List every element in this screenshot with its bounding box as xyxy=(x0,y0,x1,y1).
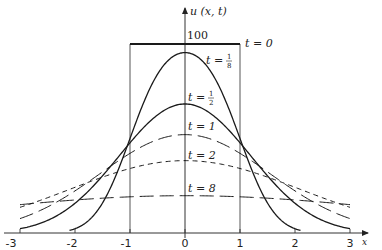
x-tick-labels: -3 -2 -1 0 1 2 3 xyxy=(6,237,354,250)
x-axis-label: x xyxy=(362,237,367,247)
heat-equation-chart: -3 -2 -1 0 1 2 3 u (x, t) x 100 t = 0 t … xyxy=(0,0,382,250)
x-tick-label: 3 xyxy=(347,237,354,250)
label-t8: t = 8 xyxy=(188,182,216,195)
x-tick-label: 1 xyxy=(237,237,244,250)
label-t0: t = 0 xyxy=(245,37,273,50)
x-tick-label: -2 xyxy=(67,237,78,250)
y-axis-label: u (x, t) xyxy=(190,5,227,18)
x-tick-label: 0 xyxy=(182,237,189,250)
x-tick-label: 2 xyxy=(292,237,299,250)
label-prefix: t = xyxy=(206,54,223,67)
label-t2: t = 2 xyxy=(188,149,216,162)
x-tick-marks xyxy=(20,229,350,233)
label-t1: t = 1 xyxy=(188,120,216,133)
label-t-eighth: t = 1 8 xyxy=(206,53,232,70)
label-prefix: t = xyxy=(188,91,205,104)
y-value-100-label: 100 xyxy=(187,29,208,42)
x-tick-label: -1 xyxy=(121,237,132,250)
fraction-numerator: 1 xyxy=(227,53,231,61)
fraction-denominator: 2 xyxy=(209,99,213,107)
fraction-numerator: 1 xyxy=(209,90,213,98)
x-tick-label: -3 xyxy=(6,237,17,250)
fraction-denominator: 8 xyxy=(227,62,231,70)
